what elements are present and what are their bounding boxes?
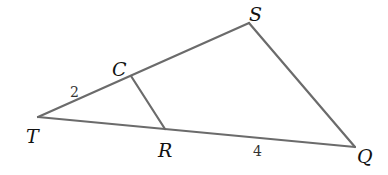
diagram-svg: C S T R Q 2 4	[0, 0, 388, 175]
vertex-label-q: Q	[357, 145, 373, 167]
vertex-label-r: R	[157, 139, 172, 161]
segment-cr	[131, 76, 165, 129]
segment-tq	[38, 117, 355, 147]
measure-tc: 2	[70, 84, 79, 100]
vertex-label-s: S	[249, 3, 262, 25]
vertex-label-c: C	[112, 58, 127, 80]
segment-sq	[249, 23, 355, 147]
vertex-label-t: T	[26, 125, 40, 147]
measure-rq: 4	[253, 143, 262, 159]
triangle-diagram: C S T R Q 2 4	[0, 0, 388, 175]
segment-ts	[38, 23, 249, 117]
